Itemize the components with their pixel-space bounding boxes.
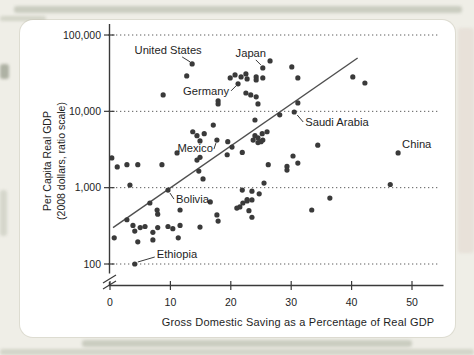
data-point xyxy=(240,150,245,155)
data-point xyxy=(234,205,239,210)
data-point xyxy=(216,218,221,223)
data-point xyxy=(254,77,259,82)
data-point xyxy=(254,94,259,99)
data-point xyxy=(225,139,230,144)
data-point xyxy=(327,196,332,201)
data-point xyxy=(246,208,251,213)
data-point xyxy=(249,189,254,194)
data-point xyxy=(155,212,160,217)
data-point xyxy=(194,157,199,162)
data-point xyxy=(240,200,245,205)
y-tick-label: 100,000 xyxy=(63,29,101,41)
data-point xyxy=(142,224,147,229)
data-point xyxy=(135,162,140,167)
data-point xyxy=(194,133,199,138)
data-point xyxy=(161,92,166,97)
callout-line xyxy=(182,57,190,62)
data-point xyxy=(229,145,234,150)
data-point xyxy=(295,100,300,105)
data-point xyxy=(255,101,260,106)
data-point xyxy=(228,75,233,80)
data-point xyxy=(350,74,355,79)
callout-line xyxy=(256,60,261,65)
data-point xyxy=(260,131,265,136)
data-point xyxy=(315,143,320,148)
country-label: Bolivia xyxy=(176,193,210,205)
data-point xyxy=(214,212,219,217)
data-point xyxy=(147,200,152,205)
data-point xyxy=(289,64,294,69)
data-point xyxy=(258,139,263,144)
data-point xyxy=(132,228,137,233)
data-point xyxy=(264,129,269,134)
y-tick-label: 1,000 xyxy=(75,181,101,193)
data-point xyxy=(290,153,295,158)
x-tick-label: 0 xyxy=(107,296,113,308)
country-label: Mexico xyxy=(177,142,212,154)
data-point-united-states xyxy=(190,61,195,66)
data-point xyxy=(176,235,181,240)
data-point xyxy=(245,76,250,81)
page: 1001,00010,000100,00001020304050United S… xyxy=(0,0,474,355)
country-label: Saudi Arabia xyxy=(305,116,369,128)
data-point xyxy=(197,224,202,229)
data-point xyxy=(124,217,129,222)
y-axis-title-line2: (2008 dollars, ratio scale) xyxy=(55,61,69,261)
data-point xyxy=(252,117,257,122)
y-tick-label: 100 xyxy=(83,258,101,270)
country-label: China xyxy=(402,138,432,150)
data-point xyxy=(138,225,143,230)
data-point xyxy=(362,80,367,85)
data-point xyxy=(245,197,250,202)
x-tick-label: 20 xyxy=(225,296,237,308)
data-point xyxy=(202,131,207,136)
data-point xyxy=(127,183,132,188)
data-point-germany xyxy=(235,81,240,86)
data-point xyxy=(260,75,265,80)
data-point xyxy=(309,207,314,212)
data-point xyxy=(130,223,135,228)
data-point xyxy=(115,164,120,169)
x-tick-label: 10 xyxy=(165,296,177,308)
country-label: Germany xyxy=(183,85,229,97)
country-label: Ethiopia xyxy=(157,248,198,260)
data-point xyxy=(225,152,230,157)
callout-line xyxy=(138,257,155,262)
data-point xyxy=(112,235,117,240)
callout-line xyxy=(231,86,236,91)
data-point xyxy=(109,155,114,160)
data-point xyxy=(249,197,254,202)
data-point-china xyxy=(396,150,401,155)
data-point xyxy=(200,176,205,181)
data-point xyxy=(261,180,266,185)
callout-line xyxy=(214,143,216,149)
data-point-bolivia xyxy=(165,187,170,192)
country-label: United States xyxy=(135,44,203,56)
data-point xyxy=(165,224,170,229)
x-tick-label: 30 xyxy=(285,296,297,308)
data-point xyxy=(211,123,216,128)
data-point xyxy=(232,72,237,77)
y-axis-title-line1: Per Capita Real GDP xyxy=(41,61,55,261)
y-axis-title: Per Capita Real GDP (2008 dollars, ratio… xyxy=(41,61,71,261)
callout-line xyxy=(170,193,174,199)
data-point-saudi-arabia xyxy=(292,109,297,114)
data-point xyxy=(388,182,393,187)
data-point xyxy=(216,101,221,106)
data-point xyxy=(177,223,182,228)
data-point xyxy=(155,225,160,230)
data-point xyxy=(150,237,155,242)
data-point xyxy=(295,75,300,80)
country-label: Japan xyxy=(236,47,266,59)
data-point xyxy=(196,168,201,173)
data-point xyxy=(267,58,272,63)
data-point xyxy=(295,160,300,165)
callout-line xyxy=(297,115,303,122)
data-point xyxy=(184,73,189,78)
data-point xyxy=(124,162,129,167)
data-point xyxy=(277,112,282,117)
y-tick-label: 10,000 xyxy=(69,105,101,117)
scatter-chart: 1001,00010,000100,00001020304050United S… xyxy=(0,0,474,355)
data-point-japan xyxy=(260,65,265,70)
data-point-ethiopia xyxy=(132,261,137,266)
